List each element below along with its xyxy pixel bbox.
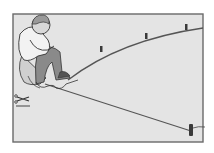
stake-icon xyxy=(185,24,188,30)
stake-icon xyxy=(100,46,103,52)
stake-icon xyxy=(145,33,148,39)
illustration xyxy=(0,0,214,153)
stake-icon xyxy=(189,124,193,136)
